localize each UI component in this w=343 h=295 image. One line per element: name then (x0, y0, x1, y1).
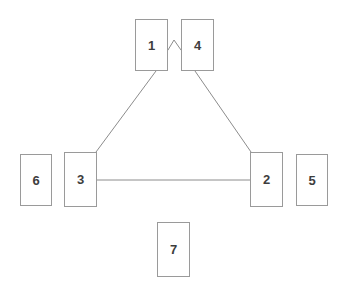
node-2[interactable]: 2 (250, 152, 283, 207)
node-4[interactable]: 4 (181, 19, 214, 71)
node-6[interactable]: 6 (20, 154, 52, 206)
node-3-label: 3 (77, 173, 84, 186)
node-5-label: 5 (308, 174, 315, 187)
node-5[interactable]: 5 (296, 154, 328, 206)
node-7-label: 7 (170, 243, 177, 256)
node-1-label: 1 (148, 39, 155, 52)
node-2-label: 2 (263, 173, 270, 186)
node-4-label: 4 (194, 39, 201, 52)
edge-node1-node4 (168, 40, 181, 50)
node-7[interactable]: 7 (157, 222, 190, 277)
node-6-label: 6 (32, 174, 39, 187)
diagram-canvas: 1 4 6 3 2 5 7 (0, 0, 343, 295)
node-1[interactable]: 1 (135, 19, 168, 71)
edge-node4-node2 (195, 71, 251, 152)
node-3[interactable]: 3 (64, 152, 97, 207)
edge-node1-node3 (96, 71, 156, 152)
